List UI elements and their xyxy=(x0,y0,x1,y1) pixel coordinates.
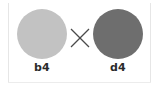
specimen-disc-left-icon xyxy=(17,9,67,59)
specimen-left-label: b4 xyxy=(17,61,67,75)
cross-operator-icon xyxy=(69,27,91,49)
genetic-cross-figure-panel: b4 d4 xyxy=(0,0,159,89)
specimen-disc-right-icon xyxy=(93,9,143,59)
specimen-right-label: d4 xyxy=(93,61,143,75)
panel-bottom-rule xyxy=(8,82,151,83)
specimen-right: d4 xyxy=(93,9,143,59)
panel-right-rule xyxy=(150,3,151,83)
specimen-left: b4 xyxy=(17,9,67,59)
panel-left-rule xyxy=(8,3,9,83)
